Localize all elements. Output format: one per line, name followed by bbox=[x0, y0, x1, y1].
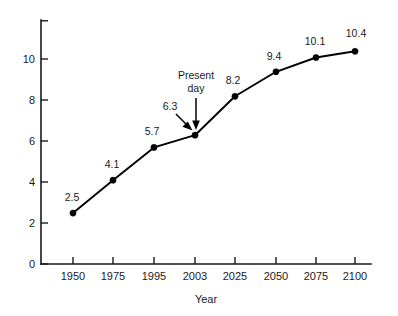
present-day-arrow bbox=[192, 98, 200, 130]
data-label-2.5: 2.5 bbox=[65, 191, 80, 203]
data-label-10.4: 10.4 bbox=[346, 27, 367, 39]
present-day-annotation-line2: day bbox=[188, 82, 206, 94]
x-tick-label-1950: 1950 bbox=[61, 270, 85, 282]
chart-canvas: 0 2 4 6 8 10 1950 1975 1995 2003 2025 20… bbox=[0, 0, 398, 316]
data-point-2075 bbox=[313, 54, 319, 60]
y-tick-label-2: 2 bbox=[29, 217, 35, 229]
value-6-3-arrow bbox=[176, 114, 193, 130]
population-growth-chart: 0 2 4 6 8 10 1950 1975 1995 2003 2025 20… bbox=[0, 0, 398, 316]
data-label-9.4: 9.4 bbox=[267, 50, 282, 62]
present-day-annotation-line1: Present bbox=[178, 69, 214, 81]
x-tick-label-2100: 2100 bbox=[343, 270, 367, 282]
data-point-2050 bbox=[273, 69, 279, 75]
y-axis-ticks bbox=[41, 59, 48, 264]
x-tick-label-2003: 2003 bbox=[183, 270, 207, 282]
data-point-1950 bbox=[70, 210, 76, 216]
data-label-8.2: 8.2 bbox=[226, 74, 241, 86]
data-point-2025 bbox=[232, 93, 238, 99]
x-axis-title: Year bbox=[195, 293, 218, 305]
y-tick-label-6: 6 bbox=[29, 135, 35, 147]
data-label-6.3: 6.3 bbox=[163, 100, 178, 112]
y-tick-label-4: 4 bbox=[29, 176, 35, 188]
x-tick-label-2025: 2025 bbox=[223, 270, 247, 282]
y-tick-label-8: 8 bbox=[29, 94, 35, 106]
data-label-5.7: 5.7 bbox=[145, 125, 160, 137]
data-label-4.1: 4.1 bbox=[105, 158, 120, 170]
data-point-2003 bbox=[192, 132, 198, 138]
x-axis-ticks bbox=[73, 257, 355, 264]
x-tick-label-1995: 1995 bbox=[142, 270, 166, 282]
data-point-1995 bbox=[151, 144, 157, 150]
data-point-1975 bbox=[110, 177, 116, 183]
y-tick-label-0: 0 bbox=[29, 258, 35, 270]
x-tick-label-2050: 2050 bbox=[264, 270, 288, 282]
x-tick-label-1975: 1975 bbox=[101, 270, 125, 282]
y-tick-label-10: 10 bbox=[23, 53, 35, 65]
data-point-2100 bbox=[352, 48, 358, 54]
data-label-10.1: 10.1 bbox=[305, 35, 326, 47]
x-tick-label-2075: 2075 bbox=[304, 270, 328, 282]
